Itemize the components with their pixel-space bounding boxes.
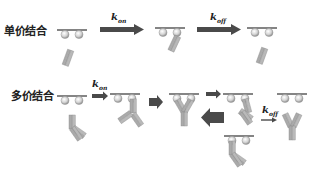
antibody-one-arm-right [238,98,253,125]
arrow-koff [197,24,241,35]
arrow-kon [100,24,144,35]
rate-koff-monovalent: koff [210,11,226,24]
arrow-kon [92,92,108,101]
row-multivalent [57,90,307,168]
surface-antigens [247,28,277,37]
surface-antigens [277,94,307,103]
surface-antigens [57,96,87,105]
row-label-multivalent: 多价结合 [11,87,53,103]
surface-antigens [155,28,185,37]
fab-fragment [256,47,268,64]
surface-antigens [169,94,199,103]
arrow-partial-release [206,90,221,99]
antibody-two-arm [174,98,193,126]
row-monovalent [57,24,277,66]
arrow-rebind-back [201,108,224,127]
surface-antigens [57,30,87,39]
antibody-released [282,113,302,140]
arrow-koff [261,118,277,123]
antibody-one-arm-left [229,141,246,167]
rate-kon-monovalent: kon [111,11,126,24]
surface-antigens [224,136,254,145]
fab-fragment-bound [168,35,181,52]
rate-koff-multivalent: koff [262,104,278,117]
antibody-one-arm [118,99,144,127]
antibody-free [69,115,86,141]
arrow-bind-second [149,95,163,109]
fab-fragment [62,49,74,66]
row-label-monovalent: 单价结合 [4,22,46,38]
rate-kon-multivalent: kon [92,78,107,91]
